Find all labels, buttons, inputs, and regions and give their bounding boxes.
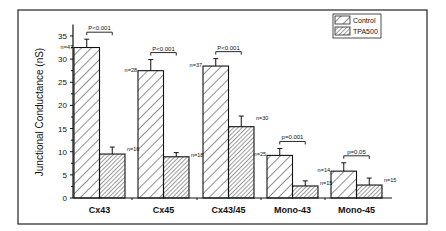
bar-control (267, 155, 293, 198)
significance-label: p=0.001 (282, 134, 305, 140)
y-tick-label: 30 (58, 55, 67, 64)
y-tick-label: 10 (58, 148, 67, 157)
n-label: n=25 (254, 151, 266, 157)
bar-tpa500 (357, 185, 383, 198)
significance-label: P<0.001 (217, 45, 240, 51)
bars: Cx43n=47n=16P<0.001Cx45n=28n=18P<0.001Cx… (61, 25, 397, 215)
y-tick-label: 25 (58, 78, 67, 87)
y-tick-label: 15 (58, 125, 67, 134)
x-category-label: Mono-43 (274, 205, 311, 215)
n-label: n=37 (190, 62, 202, 68)
bar-control (138, 71, 164, 198)
legend-swatch-tpa500 (335, 27, 350, 35)
legend-label-tpa500: TPA500 (353, 28, 378, 35)
bar-tpa500 (164, 157, 190, 198)
bar-tpa500 (293, 186, 319, 198)
x-category-label: Mono-45 (338, 205, 375, 215)
significance-label: P<0.001 (152, 46, 175, 52)
y-tick-label: 5 (63, 171, 68, 180)
significance-label: p=0.05 (347, 149, 366, 155)
n-label: n=30 (256, 115, 268, 121)
y-axis-label: Junctional Conductance (nS) (34, 48, 45, 176)
n-label: n=14 (318, 167, 330, 173)
bar-tpa500 (100, 154, 126, 198)
x-category-label: Cx45 (153, 205, 175, 215)
bar-tpa500 (229, 127, 255, 198)
legend: Control TPA500 (333, 14, 381, 38)
y-tick-label: 20 (58, 101, 67, 110)
legend-label-control: Control (353, 17, 376, 24)
bar-chart: 05101520253035 Junctional Conductance (n… (0, 0, 446, 231)
bar-control (74, 48, 100, 198)
n-label: n=28 (125, 67, 137, 73)
legend-swatch-control (335, 16, 350, 24)
n-label: n=47 (61, 44, 73, 50)
significance-label: P<0.001 (88, 25, 111, 31)
x-category-label: Cx43 (89, 205, 111, 215)
y-tick-label: 0 (63, 194, 68, 203)
x-category-label: Cx43/45 (211, 205, 245, 215)
bar-control (331, 171, 357, 198)
n-label: n=18 (191, 152, 203, 158)
n-label: n=15 (384, 177, 396, 183)
y-tick-label: 35 (58, 32, 67, 41)
bar-control (203, 66, 229, 198)
